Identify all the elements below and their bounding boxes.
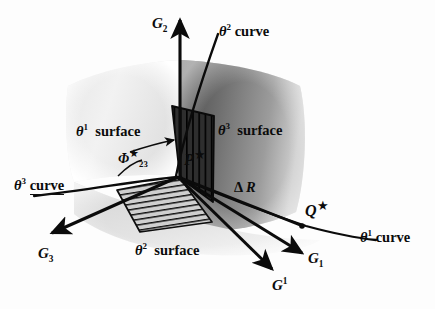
diagram-svg [0, 0, 435, 309]
point-marker-Q-star [299, 223, 305, 229]
theta1-surface-shape [66, 60, 180, 182]
figure-canvas: G2 θ2 curve θ1 surface θ3 surface Φ★23 P… [0, 0, 435, 309]
point-marker-P-star [177, 175, 182, 180]
